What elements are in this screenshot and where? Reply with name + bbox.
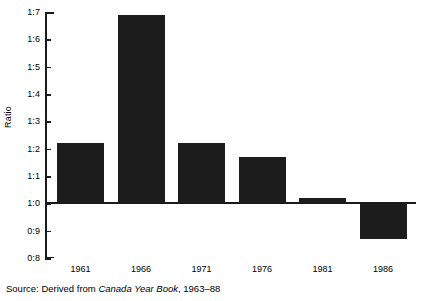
y-axis-tick-mark (45, 231, 51, 233)
bar (118, 15, 165, 204)
y-axis-tick-label: 1:2 (27, 144, 40, 154)
bar (57, 143, 104, 203)
source-caption: Source: Derived from Canada Year Book, 1… (6, 283, 220, 294)
bar (360, 203, 407, 239)
x-axis-tick-label: 1976 (233, 264, 292, 274)
x-axis-tick-label: 1971 (172, 264, 231, 274)
y-axis-tick-label: 1:3 (27, 116, 40, 126)
source-prefix: Source: Derived from (6, 283, 98, 294)
y-axis-tick-mark (45, 121, 51, 123)
y-axis-tick-mark (45, 94, 51, 96)
y-axis-tick-label: 0:8 (27, 253, 40, 263)
chart-figure: Ratio 1:71:61:51:41:31:21:11:00:90:8 196… (0, 0, 424, 301)
x-axis-tick-label: 1981 (293, 264, 352, 274)
x-axis-tick-label: 1986 (354, 264, 413, 274)
y-axis-tick-mark (45, 176, 51, 178)
y-axis-tick-mark (45, 39, 51, 41)
y-axis-tick-label: 1:0 (27, 198, 40, 208)
y-axis-tick-mark (45, 258, 51, 260)
bar (178, 143, 225, 203)
x-axis-tick-label: 1966 (112, 264, 171, 274)
bar (299, 198, 346, 203)
y-axis-tick-label: 1:4 (27, 89, 40, 99)
y-axis-tick-mark (45, 12, 51, 14)
source-suffix: , 1963–88 (178, 283, 220, 294)
y-axis-tick-label: 1:5 (27, 62, 40, 72)
bar (239, 157, 286, 203)
y-axis-label: Ratio (3, 95, 13, 139)
y-axis-tick-label: 1:7 (27, 7, 40, 17)
y-axis-tick-label: 1:1 (27, 171, 40, 181)
y-axis-tick-label: 0:9 (27, 226, 40, 236)
y-axis-spine (45, 12, 47, 258)
source-book-title: Canada Year Book (98, 283, 178, 294)
plot-area: 1:71:61:51:41:31:21:11:00:90:8 196119661… (45, 12, 416, 258)
y-axis-tick-mark (45, 67, 51, 69)
x-axis-tick-label: 1961 (51, 264, 110, 274)
y-axis-tick-label: 1:6 (27, 34, 40, 44)
y-axis-tick-mark (45, 149, 51, 151)
